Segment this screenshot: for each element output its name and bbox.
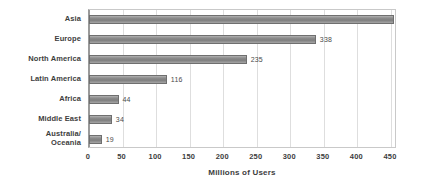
bar-value-label: 34 bbox=[116, 116, 124, 123]
bar-row: 19 bbox=[89, 129, 395, 149]
value-axis-tick-labels: 050100150200250300350400450 bbox=[88, 152, 396, 164]
tick-label-0: 0 bbox=[86, 152, 90, 161]
tick-label-250: 250 bbox=[249, 152, 262, 161]
bar-row: 44 bbox=[89, 89, 395, 109]
tick-label-300: 300 bbox=[283, 152, 296, 161]
bar-value-label: 44 bbox=[123, 96, 131, 103]
category-label: North America bbox=[28, 54, 81, 63]
bar-row: 338 bbox=[89, 30, 395, 50]
bar bbox=[89, 15, 394, 24]
category-label: Asia bbox=[65, 14, 81, 23]
plot-area: 338235116443419 bbox=[88, 9, 396, 148]
bar-value-label: 116 bbox=[171, 76, 183, 83]
bar-rows: 338235116443419 bbox=[89, 10, 395, 147]
tick-label-200: 200 bbox=[216, 152, 229, 161]
bar-value-label: 338 bbox=[320, 36, 332, 43]
bar-row: 235 bbox=[89, 50, 395, 70]
category-label: Africa bbox=[59, 94, 81, 103]
bar-value-label: 19 bbox=[106, 136, 114, 143]
bar bbox=[89, 35, 316, 44]
bar-chart: 338235116443419 AsiaEuropeNorth AmericaL… bbox=[0, 0, 431, 191]
category-axis-labels: AsiaEuropeNorth AmericaLatin AmericaAfri… bbox=[0, 9, 85, 148]
tick-label-400: 400 bbox=[350, 152, 363, 161]
bar-row bbox=[89, 10, 395, 30]
tick-label-50: 50 bbox=[117, 152, 126, 161]
tick-label-450: 450 bbox=[383, 152, 396, 161]
category-label: Australia/ Oceania bbox=[46, 129, 81, 147]
bar-row: 116 bbox=[89, 70, 395, 90]
tick-label-100: 100 bbox=[149, 152, 162, 161]
tick-label-150: 150 bbox=[182, 152, 195, 161]
tick-label-350: 350 bbox=[316, 152, 329, 161]
bar bbox=[89, 115, 112, 124]
bar bbox=[89, 95, 119, 104]
bar-row: 34 bbox=[89, 109, 395, 129]
category-label: Latin America bbox=[30, 74, 81, 83]
bar bbox=[89, 75, 167, 84]
category-label: Middle East bbox=[38, 114, 81, 123]
category-label: Europe bbox=[55, 34, 81, 43]
bar bbox=[89, 55, 247, 64]
bar-value-label: 235 bbox=[251, 56, 263, 63]
bar bbox=[89, 135, 102, 144]
axis-title: Millions of Users bbox=[88, 168, 396, 177]
